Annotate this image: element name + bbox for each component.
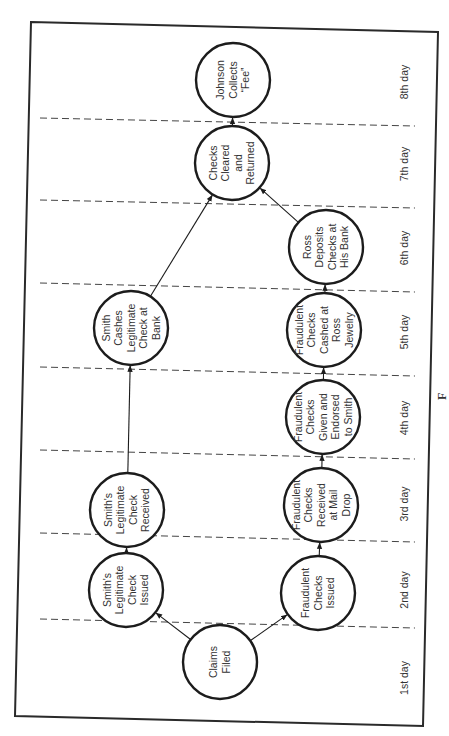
node-label-line: Fraudulent — [299, 568, 311, 618]
day-separator-7 — [40, 118, 415, 126]
node-fraud-cashed: FraudulentChecksCashed atRossJewelry — [287, 293, 361, 367]
node-label-line: Legitimate — [114, 486, 126, 535]
node-label-line: Checks — [207, 145, 219, 180]
node-label-line: Check — [127, 494, 139, 525]
node-label-line: Deposits — [313, 227, 325, 268]
node-fraud-issued: FraudulentChecksIssued — [281, 556, 355, 630]
node-label-line: Legitimate — [113, 566, 125, 615]
node-label-line: Fraudulent — [293, 305, 305, 355]
edge-smith_received-to-smith_cashes — [128, 366, 130, 473]
day-separator-4 — [40, 367, 415, 376]
diagram-canvas: ClaimsFiledSmith'sLegitimateCheckIssuedF… — [0, 0, 449, 736]
node-fraud-received: FraudulentChecksReceivedat MailDrop — [284, 468, 358, 542]
node-label-line: Check at — [137, 307, 149, 349]
node-label-line: Ross — [330, 318, 342, 342]
day-label: 1st day — [398, 660, 410, 695]
node-label-line: Checks at — [326, 224, 338, 271]
node-label-line: and — [232, 154, 244, 172]
node-smith-received: Smith'sLegitimateCheckReceived — [90, 473, 164, 547]
node-cleared: ChecksClearedandReturned — [195, 126, 269, 200]
node-label-line: Issued — [138, 574, 150, 605]
edge-smith_cashes-to-cleared — [150, 195, 212, 296]
node-label-line: Endorsed — [329, 394, 341, 439]
day-label: 4th day — [398, 400, 410, 435]
node-label-line: Smith's — [102, 493, 114, 527]
day-label: 6th day — [398, 230, 410, 265]
node-label-line: Smith's — [101, 573, 113, 607]
node-smith-issued: Smith'sLegitimateCheckIssued — [89, 553, 163, 627]
figure-caption-fragment: F — [435, 393, 449, 400]
node-label-line: Smith — [100, 314, 112, 341]
node-label-line: His Bank — [338, 225, 350, 268]
day-label: 3rd day — [398, 486, 410, 522]
node-ross-deposits: RossDepositsChecks atHis Bank — [289, 210, 363, 284]
node-label-line: Jewelry — [343, 311, 355, 347]
node-label-line: Received — [139, 488, 151, 532]
node-label-line: Checks — [312, 575, 324, 610]
node-label-line: Received — [315, 483, 327, 527]
node-label-line: Filed — [220, 650, 232, 673]
node-label-line: Given and — [317, 393, 329, 441]
node-label-line: Checks — [302, 487, 314, 522]
edge-claims-to-fraud_issued — [250, 615, 287, 641]
node-label-line: Legitimate — [125, 304, 137, 353]
node-label-line: Checks — [304, 399, 316, 434]
day-label: 2nd day — [398, 571, 410, 609]
node-label-line: “Fee” — [239, 67, 251, 93]
node-label-line: Johnson — [214, 60, 226, 100]
node-label-line: Returned — [244, 141, 256, 184]
edge-claims-to-smith_issued — [156, 613, 190, 639]
node-label-line: Drop — [340, 493, 352, 516]
node-label-line: Cashes — [112, 310, 124, 346]
node-smith-cashes: SmithCashesLegitimateCheck atBank — [94, 291, 168, 365]
node-label-line: Issued — [324, 577, 336, 608]
day-label: 5th day — [398, 314, 410, 349]
node-label-line: Bank — [150, 315, 162, 340]
day-separator-2 — [40, 533, 415, 542]
node-label-line: Ross — [301, 235, 313, 259]
node-label-line: Collects — [227, 61, 239, 98]
node-label-line: Checks — [305, 312, 317, 347]
node-label-line: Fraudulent — [290, 480, 302, 530]
day-labels: 1st day2nd day3rd day4th day5th day6th d… — [398, 64, 410, 695]
node-label-line: Check — [126, 574, 138, 605]
node-fraud-given: FraudulentChecksGiven andEndorsedto Smit… — [286, 380, 360, 454]
node-label-line: Claims — [207, 646, 219, 678]
node-label-line: to Smith — [342, 398, 354, 437]
node-label-line: Cleared — [219, 144, 231, 181]
node-label-line: Cashed at — [318, 306, 330, 354]
edge-ross_deposits-to-cleared — [260, 188, 298, 222]
day-separator-3 — [40, 450, 415, 459]
day-separator-5 — [40, 283, 415, 292]
day-label: 7th day — [398, 146, 410, 181]
node-label-line: Fraudulent — [292, 392, 304, 442]
day-label: 8th day — [398, 64, 410, 99]
node-claims: ClaimsFiled — [183, 625, 257, 699]
node-johnson: JohnsonCollects“Fee” — [196, 43, 270, 117]
day-separator-6 — [40, 200, 415, 208]
node-label-line: at Mail — [327, 490, 339, 521]
